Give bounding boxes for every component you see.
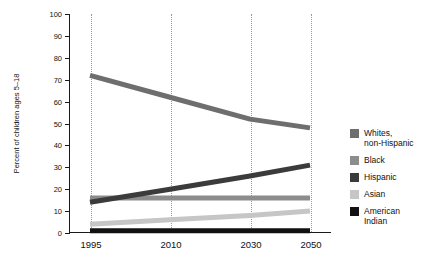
chart-legend: Whites,non-Hispanic Black Hispanic Asian… [350,128,442,233]
y-tick-0: 0 [58,229,62,238]
y-tick-mark-0 [65,233,70,234]
y-tick-50: 50 [54,119,62,128]
y-tick-10: 10 [54,207,62,216]
y-axis-title: Percent of children ages 5–18 [10,14,22,233]
legend-label-asian: Asian [364,189,385,199]
legend-label-black: Black [364,155,385,165]
y-tick-90: 90 [54,31,62,40]
legend-label-amerindian-line2: Indian [364,216,387,226]
x-tick-2030: 2030 [240,239,261,250]
y-tick-70: 70 [54,75,62,84]
legend-item-hispanic: Hispanic [350,172,442,182]
legend-label-amerindian-line1: American [364,206,400,216]
legend-swatch-whites [350,129,359,138]
series-lines [69,14,331,233]
x-tick-2010: 2010 [160,239,181,250]
series-line-asian [90,211,310,224]
y-tick-40: 40 [54,141,62,150]
legend-label-whites-line1: Whites, [364,128,392,138]
y-tick-60: 60 [54,97,62,106]
legend-swatch-asian [350,190,359,199]
legend-label-hispanic: Hispanic [364,172,397,182]
legend-swatch-hispanic [350,173,359,182]
legend-item-asian: Asian [350,189,442,199]
series-line-whites-non-hispanic [90,75,310,128]
legend-label-whites-line2: non-Hispanic [364,138,414,148]
x-tick-2050: 2050 [300,239,321,250]
chart-container: Percent of children ages 5–18 1995 2010 … [0,0,445,277]
y-tick-30: 30 [54,163,62,172]
legend-swatch-american-indian [350,207,359,216]
legend-item-american-indian: AmericanIndian [350,206,442,226]
y-tick-20: 20 [54,185,62,194]
x-tick-1995: 1995 [80,239,101,250]
y-tick-100: 100 [49,10,62,19]
legend-swatch-black [350,156,359,165]
legend-item-black: Black [350,155,442,165]
legend-item-whites-non-hispanic: Whites,non-Hispanic [350,128,442,148]
y-tick-80: 80 [54,53,62,62]
